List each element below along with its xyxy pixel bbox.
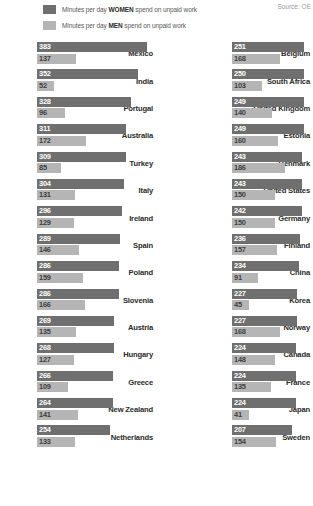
bar-men: 154: [232, 437, 276, 447]
bar-value-men: 129: [39, 218, 51, 228]
bar-group: 286159: [37, 261, 156, 284]
bar-men: 135: [37, 327, 76, 337]
bar-men: 131: [37, 190, 75, 200]
chart-column-left: Mexico383137India35252Portugal32896Austr…: [0, 40, 156, 451]
bar-value-men: 109: [39, 382, 51, 392]
bar-group: 242150: [232, 206, 313, 229]
chart-row: Netherlands254133: [0, 423, 156, 450]
source-attribution: Source: OE: [277, 3, 311, 10]
bar-women: 224: [232, 371, 296, 381]
bar-women: 352: [37, 69, 138, 79]
bar-group: 266109: [37, 371, 156, 394]
bar-value-women: 309: [39, 152, 51, 162]
bar-women: 227: [232, 289, 297, 299]
bar-value-women: 243: [234, 179, 246, 189]
bar-group: 311172: [37, 124, 156, 147]
bar-women: 286: [37, 261, 119, 271]
bar-value-women: 296: [39, 206, 51, 216]
bar-men: 96: [37, 108, 65, 118]
bar-value-men: 150: [234, 218, 246, 228]
legend-swatch-men-icon: [43, 21, 56, 30]
legend-label-men: Minutes per day MEN spend on unpaid work: [62, 22, 186, 29]
bar-men: 172: [37, 136, 86, 146]
chart-row: Turkey30985: [0, 150, 156, 177]
chart-row: South Africa250103: [157, 67, 313, 94]
bar-men: 148: [232, 355, 275, 365]
bar-women: 243: [232, 152, 302, 162]
chart-row: Estonia249160: [157, 122, 313, 149]
bar-group: 304131: [37, 179, 156, 202]
bar-women: 224: [232, 343, 296, 353]
chart-row: Mexico383137: [0, 40, 156, 67]
bar-women: 311: [37, 124, 126, 134]
bar-value-women: 227: [234, 289, 246, 299]
bar-value-men: 168: [234, 327, 246, 337]
chart-row: China23491: [157, 259, 313, 286]
legend-item-women: Minutes per day WOMEN spend on unpaid wo…: [43, 3, 197, 16]
bar-men: 157: [232, 245, 277, 255]
bar-group: 268127: [37, 343, 156, 366]
bar-men: 52: [37, 81, 54, 91]
bar-value-women: 269: [39, 316, 51, 326]
bar-value-women: 304: [39, 179, 51, 189]
bar-men: 129: [37, 218, 74, 228]
bar-value-women: 243: [234, 152, 246, 162]
bar-group: 224148: [232, 343, 313, 366]
bar-men: 137: [37, 54, 76, 64]
bar-women: 249: [232, 97, 304, 107]
bar-men: 150: [232, 190, 275, 200]
bar-women: 227: [232, 316, 297, 326]
bar-group: 289146: [37, 234, 156, 257]
chart-row: United States243150: [157, 177, 313, 204]
chart-legend: Minutes per day WOMEN spend on unpaid wo…: [43, 3, 197, 35]
bar-women: 383: [37, 42, 147, 52]
bar-group: 224135: [232, 371, 313, 394]
bar-value-women: 236: [234, 234, 246, 244]
bar-group: 286166: [37, 289, 156, 312]
bar-women: 289: [37, 234, 120, 244]
bar-value-women: 249: [234, 124, 246, 134]
bar-value-women: 328: [39, 97, 51, 107]
bar-men: 186: [232, 163, 285, 173]
bar-value-men: 91: [234, 273, 242, 283]
bar-value-men: 172: [39, 136, 51, 146]
bar-women: 249: [232, 124, 304, 134]
bar-women: 266: [37, 371, 113, 381]
bar-group: 35252: [37, 69, 156, 92]
bar-value-women: 289: [39, 234, 51, 244]
bar-value-women: 352: [39, 69, 51, 79]
chart-row: Sweden207154: [157, 423, 313, 450]
bar-women: 264: [37, 398, 113, 408]
bar-value-women: 224: [234, 343, 246, 353]
chart-row: Austria269135: [0, 314, 156, 341]
bar-men: 127: [37, 355, 74, 365]
bar-women: 251: [232, 42, 304, 52]
bar-group: 236157: [232, 234, 313, 257]
bar-value-men: 103: [234, 81, 246, 91]
bar-value-men: 154: [234, 437, 246, 447]
bar-women: 224: [232, 398, 296, 408]
bar-value-men: 96: [39, 108, 47, 118]
bar-women: 269: [37, 316, 114, 326]
bar-value-women: 242: [234, 206, 246, 216]
bar-group: 254133: [37, 425, 156, 448]
bar-value-men: 168: [234, 54, 246, 64]
bar-women: 236: [232, 234, 300, 244]
bar-value-women: 234: [234, 261, 246, 271]
bar-value-men: 85: [39, 163, 47, 173]
bar-value-men: 133: [39, 437, 51, 447]
chart-row: Canada224148: [157, 341, 313, 368]
chart-row: Korea22745: [157, 287, 313, 314]
bar-value-men: 135: [39, 327, 51, 337]
bar-women: 286: [37, 289, 119, 299]
bar-men: 150: [232, 218, 275, 228]
bar-group: 250103: [232, 69, 313, 92]
bar-women: 254: [37, 425, 110, 435]
bar-group: 251168: [232, 42, 313, 65]
bar-group: 249140: [232, 97, 313, 120]
bar-value-men: 186: [234, 163, 246, 173]
bar-women: 243: [232, 179, 302, 189]
bar-men: 41: [232, 410, 249, 420]
bar-group: 296129: [37, 206, 156, 229]
chart-row: Slovenia286166: [0, 287, 156, 314]
